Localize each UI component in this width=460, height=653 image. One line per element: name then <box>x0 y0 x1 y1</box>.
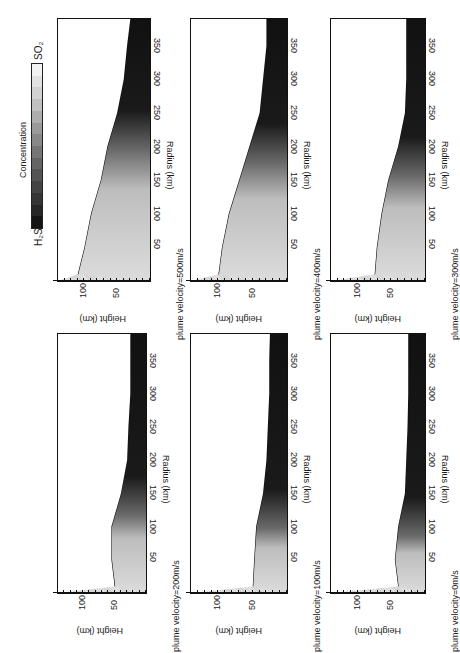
radius-tick-label: 50 <box>148 552 158 562</box>
height-tick <box>70 590 71 593</box>
height-tick-label: 50 <box>109 600 119 610</box>
height-tick <box>238 278 239 281</box>
radius-tick-label: 350 <box>427 38 437 53</box>
height-tick-label: 100 <box>352 595 362 610</box>
height-tick <box>364 278 365 281</box>
height-tick <box>64 278 65 281</box>
height-tick <box>390 590 391 593</box>
height-tick <box>337 278 338 281</box>
height-tick <box>417 590 418 593</box>
radius-tick-label: 100 <box>427 519 437 534</box>
radius-axis-label: Radius (km) <box>440 141 450 190</box>
radius-tick-label: 300 <box>427 386 437 401</box>
height-tick <box>96 278 97 281</box>
height-tick <box>83 278 84 281</box>
height-tick <box>245 278 246 281</box>
height-tick <box>390 278 391 281</box>
colorbar-title: Concentration <box>18 122 28 178</box>
height-tick <box>404 590 405 593</box>
radius-tick-label: 250 <box>427 419 437 434</box>
radius-tick-label: 300 <box>289 71 299 86</box>
height-tick <box>252 278 253 281</box>
radius-axis-label: Radius (km) <box>302 455 312 504</box>
height-tick <box>224 590 225 593</box>
height-tick <box>424 590 425 593</box>
height-tick <box>129 278 130 281</box>
height-tick <box>337 590 338 593</box>
height-tick <box>231 278 232 281</box>
contour-plot-p400 <box>190 18 288 282</box>
panel-title: plume velocity=200m/s <box>171 560 181 652</box>
colorbar-band <box>32 216 42 228</box>
height-tick <box>95 590 96 593</box>
height-tick <box>190 278 191 281</box>
radius-tick-label: 300 <box>152 71 162 86</box>
height-tick <box>377 590 378 593</box>
panel-title: plume velocity=500m/s <box>175 248 185 340</box>
radius-axis-label: Radius (km) <box>440 455 450 504</box>
height-tick-label: 50 <box>385 600 395 610</box>
height-tick <box>76 590 77 593</box>
height-axis-label: Height (km) <box>215 626 262 636</box>
height-tick-label: 50 <box>247 600 257 610</box>
height-tick <box>107 590 108 593</box>
height-tick <box>63 590 64 593</box>
height-tick-label: 50 <box>111 288 121 298</box>
radius-tick-label: 50 <box>289 552 299 562</box>
height-tick <box>88 590 89 593</box>
colorbar-band <box>32 99 42 111</box>
height-tick <box>377 278 378 281</box>
height-tick <box>259 278 260 281</box>
height-axis-line <box>186 280 286 281</box>
colorbar-band <box>32 169 42 181</box>
colorbar-band <box>32 87 42 99</box>
height-tick <box>384 278 385 281</box>
radius-tick-label: 200 <box>427 452 437 467</box>
panel-title: plume velocity=400m/s <box>312 248 322 340</box>
colorbar-band <box>32 181 42 193</box>
radius-tick-label: 150 <box>152 172 162 187</box>
height-tick <box>259 590 260 593</box>
contour-plot-p300 <box>330 18 426 282</box>
radius-tick-label: 50 <box>427 239 437 249</box>
height-tick-label: 100 <box>212 595 222 610</box>
radius-tick-label: 100 <box>152 206 162 221</box>
radius-tick-label: 350 <box>152 38 162 53</box>
height-tick <box>252 590 253 593</box>
height-tick <box>286 590 287 593</box>
radius-tick-label: 150 <box>427 172 437 187</box>
radius-tick-label: 100 <box>289 519 299 534</box>
height-tick <box>245 590 246 593</box>
radius-tick-label: 350 <box>289 38 299 53</box>
radius-tick-label: 300 <box>427 71 437 86</box>
height-tick <box>224 278 225 281</box>
colorbar-top-label: SO₂ <box>33 42 44 60</box>
panel-title: plume velocity=300m/s <box>450 248 460 340</box>
height-tick <box>110 278 111 281</box>
radius-tick-label: 150 <box>289 485 299 500</box>
contour-plot-p100 <box>190 333 288 594</box>
radius-tick-label: 100 <box>148 519 158 534</box>
colorbar-band <box>32 123 42 135</box>
height-tick <box>343 278 344 281</box>
contour-plot-p500 <box>57 18 151 282</box>
height-tick <box>343 590 344 593</box>
height-tick <box>101 590 102 593</box>
height-tick <box>190 590 191 593</box>
height-tick <box>139 590 140 593</box>
height-tick <box>145 590 146 593</box>
height-tick <box>211 278 212 281</box>
height-tick <box>231 590 232 593</box>
radius-tick-label: 250 <box>148 419 158 434</box>
colorbar <box>31 63 43 229</box>
colorbar-band <box>32 158 42 170</box>
height-tick <box>114 590 115 593</box>
height-tick <box>123 278 124 281</box>
height-axis-label: Height (km) <box>354 314 401 324</box>
radius-axis-label: Radius (km) <box>161 455 171 504</box>
height-tick <box>238 590 239 593</box>
radius-tick-label: 200 <box>289 139 299 154</box>
height-tick-label: 50 <box>385 288 395 298</box>
height-tick <box>120 590 121 593</box>
radius-tick-label: 150 <box>427 485 437 500</box>
